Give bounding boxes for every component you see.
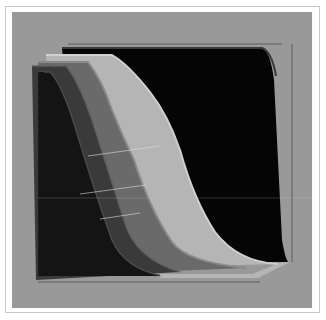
dvh-chart bbox=[0, 0, 326, 320]
